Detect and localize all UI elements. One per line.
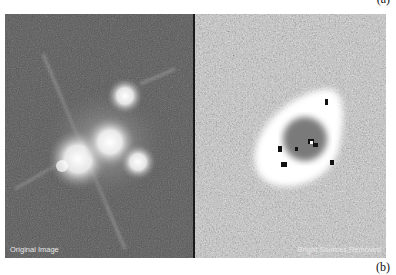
original-image-panel: Original Image xyxy=(5,14,193,258)
bright-sources-removed-panel: Bright Sources Removed xyxy=(195,14,386,258)
original-image xyxy=(5,14,193,258)
residual-image xyxy=(195,14,386,258)
original-image-caption: Original Image xyxy=(10,245,59,254)
figure-b: Original Image xyxy=(5,14,386,258)
figure-label-a: (a) xyxy=(377,0,390,7)
figure-label-b: (b) xyxy=(376,260,390,275)
bright-sources-removed-caption: Bright Sources Removed xyxy=(298,245,381,254)
